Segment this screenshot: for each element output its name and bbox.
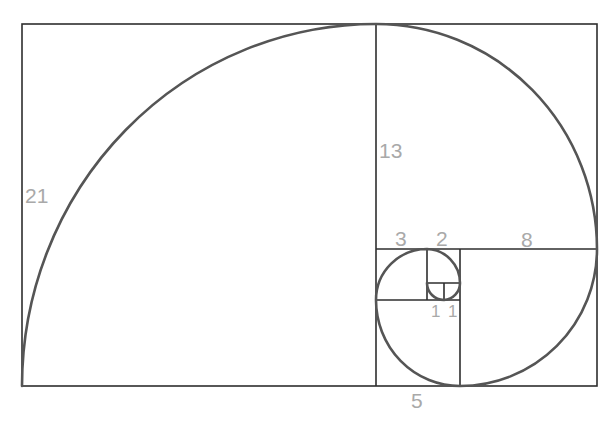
label-1b: 1 <box>448 303 457 320</box>
outer-rectangle <box>22 24 597 386</box>
label-2: 2 <box>436 228 448 249</box>
label-13: 13 <box>379 140 402 161</box>
spiral-curve <box>22 24 597 386</box>
label-1a: 1 <box>431 303 440 320</box>
fibonacci-spiral-diagram <box>0 0 615 431</box>
label-5: 5 <box>411 390 423 411</box>
label-8: 8 <box>521 229 533 250</box>
label-3: 3 <box>395 228 407 249</box>
label-21: 21 <box>25 185 48 206</box>
